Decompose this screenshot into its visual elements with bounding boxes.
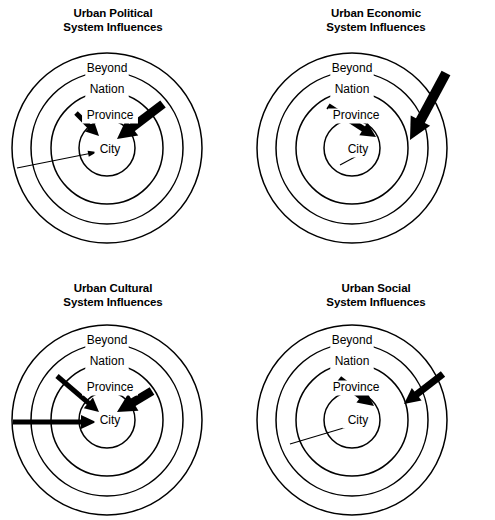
panel-title-line2: System Influences [326,296,425,308]
ring-label-nation: Nation [90,354,125,368]
ring-label-beyond: Beyond [332,61,373,75]
ring-label-nation: Nation [335,354,370,368]
ring-label-beyond: Beyond [87,333,128,347]
ring-label-beyond: Beyond [87,61,128,75]
ring-label-beyond: Beyond [332,333,373,347]
panel-title-line2: System Influences [326,21,425,33]
panel-title-urban-political: Urban PoliticalSystem Influences [63,7,162,33]
panel-urban-political: Urban PoliticalSystem InfluencesBeyondNa… [12,7,202,243]
thick-arrow-from-beyond-icon [13,415,96,429]
panel-title-line1: Urban Social [341,282,410,294]
panel-title-urban-social: Urban SocialSystem Influences [326,282,425,308]
panel-title-urban-cultural: Urban CulturalSystem Influences [63,282,162,308]
thick-arrow-from-province-right-icon [404,374,443,404]
ring-label-nation: Nation [335,82,370,96]
panel-title-line2: System Influences [63,296,162,308]
ring-label-city: City [348,413,369,427]
panel-title-line1: Urban Political [73,7,152,19]
ring-label-city: City [100,142,121,156]
ring-label-province: Province [333,380,380,394]
figure-canvas: Urban PoliticalSystem InfluencesBeyondNa… [0,0,495,520]
ring-diagram-svg: Urban PoliticalSystem InfluencesBeyondNa… [0,0,495,520]
panel-urban-cultural: Urban CulturalSystem InfluencesBeyondNat… [12,282,202,515]
ring-label-province: Province [87,380,134,394]
ring-label-province: Province [87,108,134,122]
panel-title-line1: Urban Cultural [74,282,152,294]
ring-label-city: City [348,142,369,156]
panel-title-line2: System Influences [63,21,162,33]
panel-title-line1: Urban Economic [331,7,422,19]
ring-label-nation: Nation [90,82,125,96]
ring-label-province: Province [333,108,380,122]
panel-urban-economic: Urban EconomicSystem InfluencesBeyondNat… [257,7,447,243]
panel-urban-social: Urban SocialSystem InfluencesBeyondNatio… [257,282,447,515]
panel-title-urban-economic: Urban EconomicSystem Influences [326,7,425,33]
ring-label-city: City [100,413,121,427]
